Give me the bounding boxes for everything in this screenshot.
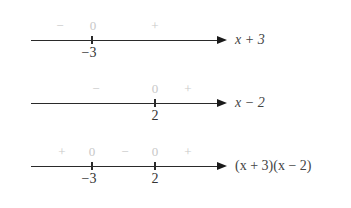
tick-mark [91,36,93,44]
number-line-product: + 0 − 0 + −3 2 (x + 3)(x − 2) [0,143,351,203]
sign-label: + [184,144,191,160]
sign-label: + [151,18,158,34]
tick-label: 2 [152,171,159,187]
sign-label: 0 [152,144,159,160]
sign-label: + [184,81,191,97]
arrow-head-icon [217,99,227,107]
sign-label: 0 [89,144,96,160]
sign-label: 0 [152,81,159,97]
arrow-head-icon [217,36,227,44]
tick-label: 2 [152,108,159,124]
sign-label: − [121,144,128,160]
axis-line [31,40,218,41]
axis-line [31,166,218,167]
tick-label: −3 [82,171,97,187]
sign-label: − [92,81,99,97]
sign-label: − [56,18,63,34]
expression-label: x − 2 [235,95,265,111]
axis-line [31,103,218,104]
number-line-x-plus-3: − 0 + −3 x + 3 [0,15,351,75]
number-line-x-minus-2: − 0 + 2 x − 2 [0,80,351,140]
tick-mark [154,99,156,107]
expression-label: (x + 3)(x − 2) [235,158,311,174]
arrow-head-icon [217,162,227,170]
tick-mark [91,162,93,170]
tick-mark [154,162,156,170]
expression-label: x + 3 [235,32,265,48]
sign-label: + [58,144,65,160]
tick-label: −3 [82,45,97,61]
sign-label: 0 [90,18,97,34]
